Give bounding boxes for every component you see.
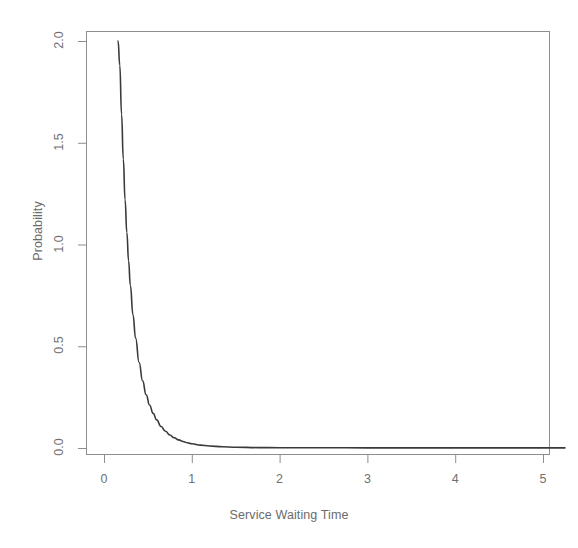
plot-canvas — [0, 0, 578, 548]
chart-figure: Probability Service Waiting Time 0.00.51… — [0, 0, 578, 548]
panel-border — [87, 32, 550, 455]
data-curve — [118, 41, 565, 448]
